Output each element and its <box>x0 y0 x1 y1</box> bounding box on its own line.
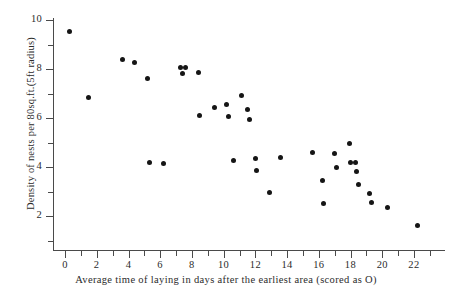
x-tick-label: 8 <box>180 259 204 270</box>
x-tick-minor <box>81 251 82 256</box>
x-tick-minor <box>398 251 399 256</box>
x-tick-minor <box>144 251 145 256</box>
x-tick-label: 12 <box>243 259 267 270</box>
y-axis-title: Density of nests per 80sq.ft.(5ft radius… <box>25 16 36 231</box>
x-tick-major <box>129 251 130 258</box>
data-point <box>67 29 72 34</box>
x-tick-major <box>97 251 98 258</box>
x-tick-major <box>414 251 415 258</box>
data-point <box>247 117 252 122</box>
y-tick-minor <box>48 241 54 242</box>
x-tick-label: 2 <box>85 259 109 270</box>
x-tick-major <box>192 251 193 258</box>
y-tick-minor <box>48 45 54 46</box>
data-point <box>356 182 361 187</box>
x-tick-major <box>287 251 288 258</box>
x-axis-title: Average time of laying in days after the… <box>0 274 452 285</box>
data-point <box>147 160 152 165</box>
x-tick-label: 6 <box>148 259 172 270</box>
x-tick-minor <box>113 251 114 256</box>
data-point <box>278 155 283 160</box>
x-tick-label: 10 <box>212 259 236 270</box>
data-point <box>347 141 352 146</box>
x-tick-label: 16 <box>307 259 331 270</box>
x-tick-minor <box>271 251 272 256</box>
x-tick-label: 22 <box>402 259 426 270</box>
x-tick-minor <box>208 251 209 256</box>
y-tick-minor <box>48 192 54 193</box>
data-point <box>253 156 258 161</box>
data-point <box>353 160 358 165</box>
x-tick-minor <box>176 251 177 256</box>
y-tick-minor <box>48 143 54 144</box>
y-tick-major <box>46 167 54 168</box>
x-tick-minor <box>430 251 431 256</box>
x-tick-label: 14 <box>275 259 299 270</box>
data-point <box>245 107 250 112</box>
data-point <box>120 57 125 62</box>
x-tick-label: 0 <box>53 259 77 270</box>
x-tick-major <box>224 251 225 258</box>
data-point <box>320 178 325 183</box>
data-point <box>369 200 374 205</box>
x-tick-major <box>255 251 256 258</box>
scatter-plot-figure: 246810 0246810121416182022 Density of ne… <box>0 0 452 300</box>
data-point <box>196 70 201 75</box>
x-tick-minor <box>366 251 367 256</box>
y-tick-minor <box>48 94 54 95</box>
x-tick-minor <box>303 251 304 256</box>
y-tick-major <box>46 118 54 119</box>
y-tick-major <box>46 69 54 70</box>
x-tick-label: 20 <box>370 259 394 270</box>
x-tick-major <box>351 251 352 258</box>
x-tick-label: 4 <box>117 259 141 270</box>
x-tick-minor <box>335 251 336 256</box>
data-point <box>310 150 315 155</box>
x-tick-major <box>65 251 66 258</box>
data-point <box>385 205 390 210</box>
data-point <box>334 165 339 170</box>
data-point <box>161 161 166 166</box>
data-point <box>212 105 217 110</box>
x-tick-major <box>319 251 320 258</box>
y-tick-major <box>46 20 54 21</box>
x-tick-label: 18 <box>339 259 363 270</box>
y-tick-major <box>46 216 54 217</box>
x-tick-minor <box>240 251 241 256</box>
x-tick-major <box>160 251 161 258</box>
x-tick-major <box>382 251 383 258</box>
plot-area <box>53 14 445 250</box>
